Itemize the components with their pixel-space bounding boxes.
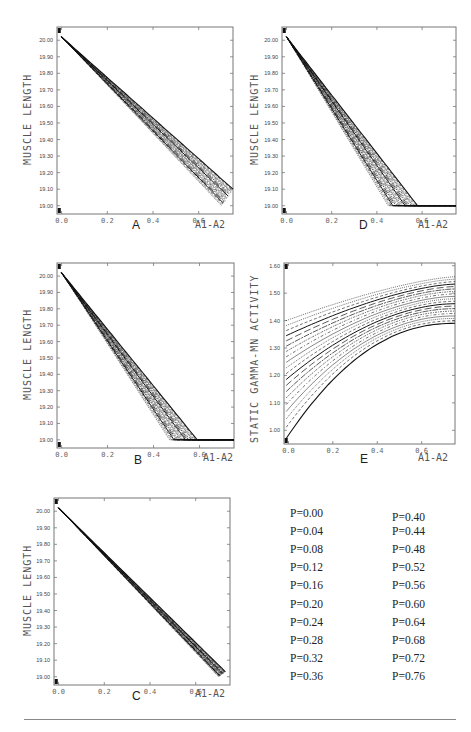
y-tick-label: 19.40 xyxy=(36,608,50,614)
x-axis-label: A1-A2 xyxy=(195,688,225,699)
y-tick-label: 19.30 xyxy=(36,624,50,630)
y-tick-label: 19.60 xyxy=(39,103,53,109)
y-tick-label: 19.00 xyxy=(39,437,53,443)
y-tick-label: 19.00 xyxy=(264,203,278,209)
y-tick-label: 19.10 xyxy=(39,186,53,192)
x-tick-label: 0.0 xyxy=(280,217,293,225)
x-tick-label: 0.0 xyxy=(282,447,295,455)
y-tick-label: 19.20 xyxy=(36,641,50,647)
panel-letter: D xyxy=(359,218,368,232)
plot-area: 0.00.20.40.619.0019.1019.2019.3019.4019.… xyxy=(57,263,234,448)
plot-area: 0.00.20.40.619.0019.1019.2019.3019.4019.… xyxy=(54,498,230,685)
series-lines xyxy=(287,37,457,206)
y-tick-label: 20.00 xyxy=(39,37,53,43)
plot-area: 0.00.20.40.619.0019.1019.2019.3019.4019.… xyxy=(282,27,456,214)
legend-label: P=0.56 xyxy=(392,579,425,591)
x-tick-label: 0.4 xyxy=(371,447,384,455)
y-tick-label: 19.20 xyxy=(39,170,53,176)
panel-letter: E xyxy=(360,452,368,466)
y-tick-label: 19.60 xyxy=(264,103,278,109)
legend-label: P=0.20 xyxy=(290,598,323,610)
legend-label: P=0.64 xyxy=(392,616,425,628)
x-tick-label: 0.2 xyxy=(101,451,114,459)
y-tick-label: 1.10 xyxy=(269,400,280,406)
panel-letter: B xyxy=(134,453,142,467)
series-lines xyxy=(59,508,226,677)
x-tick-label: 0.0 xyxy=(55,451,68,459)
legend-label: P=0.00 xyxy=(290,507,323,519)
y-tick-label: 1.30 xyxy=(269,345,280,351)
chart-panel-b: 0.00.20.40.619.0019.1019.2019.3019.4019.… xyxy=(57,263,234,448)
y-tick-label: 19.60 xyxy=(39,339,53,345)
series-lines xyxy=(62,273,234,440)
x-tick-label: 0.0 xyxy=(55,217,68,225)
x-axis-label: A1-A2 xyxy=(203,452,233,463)
y-tick-label: 19.90 xyxy=(39,54,53,60)
y-tick-label: 19.70 xyxy=(36,558,50,564)
y-axis-label: MUSCLE LENGTH xyxy=(22,309,33,400)
y-tick-label: 19.70 xyxy=(39,87,53,93)
chart-panel-a: 0.00.20.40.619.0019.1019.2019.3019.4019.… xyxy=(57,27,233,214)
legend-label: P=0.44 xyxy=(392,525,425,537)
y-tick-label: 1.40 xyxy=(269,318,280,324)
x-tick-label: 0.0 xyxy=(52,688,65,696)
y-tick-label: 19.10 xyxy=(264,186,278,192)
y-tick-label: 19.80 xyxy=(36,541,50,547)
x-tick-label: 0.2 xyxy=(327,447,340,455)
legend-label: P=0.40 xyxy=(392,511,425,523)
y-tick-label: 19.70 xyxy=(264,87,278,93)
legend-label: P=0.28 xyxy=(290,634,323,646)
chart-panel-c: 0.00.20.40.619.0019.1019.2019.3019.4019.… xyxy=(54,498,230,685)
series-lines xyxy=(62,37,233,206)
y-tick-label: 19.70 xyxy=(39,322,53,328)
x-tick-label: 0.4 xyxy=(144,688,157,696)
y-tick-label: 19.00 xyxy=(36,674,50,680)
bottom-rule xyxy=(24,719,456,720)
legend-label: P=0.72 xyxy=(392,652,425,664)
y-tick-label: 19.50 xyxy=(36,591,50,597)
legend-label: P=0.32 xyxy=(290,652,323,664)
y-tick-label: 1.60 xyxy=(269,263,280,269)
legend-label: P=0.08 xyxy=(290,543,323,555)
series-lines xyxy=(286,277,455,439)
legend-label: P=0.48 xyxy=(392,543,425,555)
y-tick-label: 19.40 xyxy=(39,137,53,143)
plot-area: 0.00.20.40.61.001.101.201.301.401.501.60 xyxy=(284,263,455,444)
legend-label: P=0.12 xyxy=(290,561,323,573)
y-tick-label: 19.80 xyxy=(39,70,53,76)
y-tick-label: 19.30 xyxy=(264,153,278,159)
chart-panel-e: 0.00.20.40.61.001.101.201.301.401.501.60 xyxy=(284,263,455,444)
x-tick-label: 0.2 xyxy=(325,217,338,225)
legend-label: P=0.36 xyxy=(290,670,323,682)
legend-label: P=0.76 xyxy=(392,670,425,682)
panel-letter: C xyxy=(132,689,141,703)
x-tick-label: 0.4 xyxy=(371,217,384,225)
x-axis-label: A1-A2 xyxy=(195,219,225,230)
y-axis-label: MUSCLE LENGTH xyxy=(22,74,33,165)
y-axis-label: MUSCLE LENGTH xyxy=(22,545,33,636)
y-tick-label: 19.10 xyxy=(39,420,53,426)
y-tick-label: 19.90 xyxy=(36,525,50,531)
legend-label: P=0.16 xyxy=(290,579,323,591)
legend-label: P=0.24 xyxy=(290,616,323,628)
legend-label: P=0.52 xyxy=(392,561,425,573)
y-tick-label: 19.40 xyxy=(39,371,53,377)
y-tick-label: 1.50 xyxy=(269,290,280,296)
y-tick-label: 19.20 xyxy=(39,404,53,410)
legend-label: P=0.68 xyxy=(392,634,425,646)
y-tick-label: 20.00 xyxy=(39,273,53,279)
y-tick-label: 1.00 xyxy=(269,427,280,433)
y-tick-label: 19.80 xyxy=(264,70,278,76)
x-axis-label: A1-A2 xyxy=(418,452,448,463)
y-axis-label: STATIC GAMMA-MN ACTIVITY xyxy=(249,275,260,444)
y-tick-label: 19.90 xyxy=(39,289,53,295)
y-tick-label: 19.50 xyxy=(39,355,53,361)
y-tick-label: 1.20 xyxy=(269,372,280,378)
chart-panel-d: 0.00.20.40.619.0019.1019.2019.3019.4019.… xyxy=(282,27,456,214)
y-tick-label: 19.30 xyxy=(39,388,53,394)
y-tick-label: 19.60 xyxy=(36,574,50,580)
y-tick-label: 19.30 xyxy=(39,153,53,159)
x-tick-label: 0.4 xyxy=(147,217,160,225)
y-tick-label: 20.00 xyxy=(264,37,278,43)
y-tick-label: 19.90 xyxy=(264,54,278,60)
